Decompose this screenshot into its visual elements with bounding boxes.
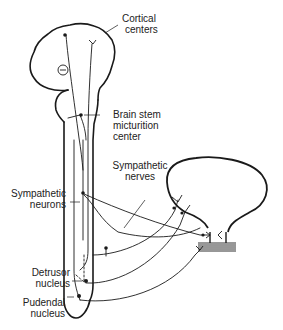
label-line: neurons — [0, 199, 66, 210]
label-line: nucleus — [0, 308, 65, 319]
label-line: center — [113, 131, 161, 142]
label-sympathetic-neurons: Sympathetic neurons — [0, 188, 66, 210]
label-sympathetic-nerves: Sympathetic nerves — [104, 160, 176, 182]
label-line: micturition — [113, 120, 161, 131]
label-cortical-centers: Cortical centers — [122, 13, 158, 35]
label-line: Sympathetic — [104, 160, 176, 171]
label-line: Cortical — [122, 13, 158, 24]
label-line: nucleus — [0, 278, 70, 289]
label-line: Detrusor — [0, 267, 70, 278]
label-line: Pudendal — [0, 297, 65, 308]
label-line: Brain stem — [113, 109, 161, 120]
label-line: nerves — [104, 171, 176, 182]
label-pudendal-nucleus: Pudendal nucleus — [0, 297, 65, 319]
label-line: centers — [122, 24, 158, 35]
label-brain-stem-micturition-center: Brain stem micturition center — [113, 109, 161, 142]
label-line: Sympathetic — [0, 188, 66, 199]
sphincter — [198, 243, 236, 251]
inhibition-symbol — [58, 65, 68, 75]
label-detrusor-nucleus: Detrusor nucleus — [0, 267, 70, 289]
